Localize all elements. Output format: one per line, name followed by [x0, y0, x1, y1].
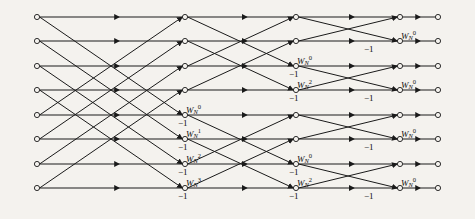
input-node: [34, 87, 39, 92]
stage2-node: [293, 112, 298, 117]
stage1-node: [182, 63, 187, 68]
twiddle-exponent: 1: [198, 127, 201, 134]
twiddle-label-stage1-row6: WN2: [186, 153, 201, 165]
minus-one-label-stage2-row6: −1: [289, 168, 299, 177]
twiddle-exponent: 0: [309, 54, 312, 61]
twiddle-base: W: [186, 178, 194, 188]
twiddle-base: W: [297, 178, 305, 188]
minus-one-label-stage3-row3: −1: [364, 94, 374, 103]
input-node: [34, 38, 39, 43]
twiddle-exponent: 0: [413, 127, 416, 134]
twiddle-label-stage2-row3: WN2: [297, 79, 312, 91]
input-node: [34, 185, 39, 190]
output-node: [435, 38, 440, 43]
twiddle-exponent: 0: [198, 103, 201, 110]
twiddle-base: W: [186, 105, 194, 115]
minus-one-label-stage1-row7: −1: [178, 192, 188, 201]
twiddle-exponent: 2: [309, 176, 312, 183]
minus-one-label-stage3-row1: −1: [364, 45, 374, 54]
stage3-node: [397, 161, 402, 166]
twiddle-base: W: [401, 80, 409, 90]
output-node: [435, 14, 440, 19]
input-node: [34, 112, 39, 117]
twiddle-base: W: [401, 178, 409, 188]
twiddle-exponent: 0: [413, 78, 416, 85]
fft-butterfly-diagram: WN0WN1WN2WN3WN0WN2WN0WN2WN0WN0WN0WN0−1−1…: [0, 0, 475, 219]
twiddle-label-stage1-row7: WN3: [186, 177, 201, 189]
twiddle-exponent: 0: [309, 152, 312, 159]
stage3-node: [397, 14, 402, 19]
stage2-node: [293, 136, 298, 141]
twiddle-exponent: 2: [309, 78, 312, 85]
minus-one-label-stage3-row7: −1: [364, 192, 374, 201]
minus-one-label-stage1-row4: −1: [178, 119, 188, 128]
twiddle-base: W: [401, 129, 409, 139]
twiddle-base: W: [297, 80, 305, 90]
stage1-node: [182, 38, 187, 43]
twiddle-label-stage2-row2: WN0: [297, 55, 312, 67]
minus-one-label-stage2-row7: −1: [289, 192, 299, 201]
output-node: [435, 112, 440, 117]
output-node: [435, 136, 440, 141]
twiddle-exponent: 2: [198, 152, 201, 159]
flow-edges: [40, 17, 436, 188]
twiddle-base: W: [401, 31, 409, 41]
input-node: [34, 63, 39, 68]
stage3-node: [397, 63, 402, 68]
output-node: [435, 63, 440, 68]
stage2-node: [293, 14, 298, 19]
twiddle-exponent: 0: [413, 29, 416, 36]
minus-one-label-stage1-row5: −1: [178, 143, 188, 152]
minus-one-label-stage1-row6: −1: [178, 168, 188, 177]
twiddle-base: W: [297, 56, 305, 66]
twiddle-exponent: 0: [413, 176, 416, 183]
twiddle-exponent: 3: [198, 176, 201, 183]
minus-one-label-stage2-row2: −1: [289, 70, 299, 79]
twiddle-label-stage3-row7: WN0: [401, 177, 416, 189]
twiddle-base: W: [186, 154, 194, 164]
stage3-node: [397, 112, 402, 117]
twiddle-label-stage3-row5: WN0: [401, 128, 416, 140]
output-node: [435, 185, 440, 190]
twiddle-label-stage3-row3: WN0: [401, 79, 416, 91]
input-node: [34, 14, 39, 19]
output-node: [435, 87, 440, 92]
input-node: [34, 136, 39, 141]
twiddle-label-stage2-row6: WN0: [297, 153, 312, 165]
stage1-node: [182, 87, 187, 92]
twiddle-label-stage1-row5: WN1: [186, 128, 201, 140]
twiddle-label-stage3-row1: WN0: [401, 30, 416, 42]
minus-one-label-stage3-row5: −1: [364, 143, 374, 152]
minus-one-label-stage2-row3: −1: [289, 94, 299, 103]
twiddle-label-stage2-row7: WN2: [297, 177, 312, 189]
twiddle-base: W: [297, 154, 305, 164]
stage1-node: [182, 14, 187, 19]
stage2-node: [293, 38, 298, 43]
twiddle-base: W: [186, 129, 194, 139]
input-node: [34, 161, 39, 166]
output-node: [435, 161, 440, 166]
twiddle-label-stage1-row4: WN0: [186, 104, 201, 116]
